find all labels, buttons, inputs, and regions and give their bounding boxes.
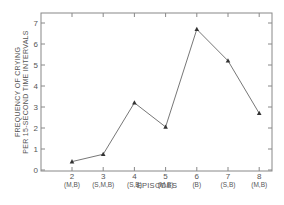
x-sublabel: (M,B) <box>251 181 267 189</box>
y-axis-label-line2: PER 15-SECOND TIME INTERVALS <box>22 30 29 154</box>
y-tick-label: 3 <box>34 103 39 112</box>
x-axis: 2(M,B)3(S,M,B)4(S,B)5(M,B)6(B)7(S,B)8(M,… <box>64 13 267 189</box>
y-tick-label: 0 <box>34 166 39 175</box>
x-tick-label: 3 <box>101 172 106 181</box>
y-tick-label: 6 <box>34 40 39 49</box>
triangle-marker-icon <box>195 27 200 31</box>
x-tick-label: 2 <box>70 172 75 181</box>
x-sublabel: (M,B) <box>64 181 80 189</box>
x-tick-label: 6 <box>195 172 200 181</box>
y-tick-label: 7 <box>34 19 39 28</box>
triangle-marker-icon <box>132 100 137 104</box>
x-tick-label: 4 <box>132 172 137 181</box>
plot-frame <box>41 13 272 171</box>
y-tick-label: 4 <box>34 82 39 91</box>
x-axis-label: EPISODES <box>137 181 178 190</box>
x-tick-label: 8 <box>257 172 262 181</box>
x-tick-label: 5 <box>163 172 168 181</box>
x-tick-label: 7 <box>226 172 231 181</box>
x-sublabel: (S,B) <box>221 181 236 189</box>
data-line <box>72 29 259 161</box>
y-tick-label: 2 <box>34 124 39 133</box>
y-tick-label: 1 <box>34 145 39 154</box>
x-sublabel: (B) <box>192 181 201 189</box>
data-markers <box>70 27 262 164</box>
y-axis: 01234567 <box>34 19 272 175</box>
y-tick-label: 5 <box>34 61 39 70</box>
plot-border <box>41 13 272 171</box>
line-chart: 01234567 2(M,B)3(S,M,B)4(S,B)5(M,B)6(B)7… <box>0 0 284 205</box>
y-axis-label-line1: FREQUENCY OF CRYING <box>14 47 22 137</box>
x-sublabel: (S,M,B) <box>92 181 114 189</box>
